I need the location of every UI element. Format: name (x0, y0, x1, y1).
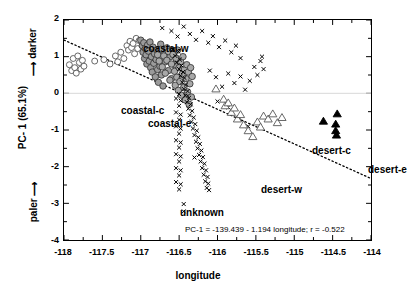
x-tick-label-6: -115 (275, 247, 315, 257)
data-point (239, 56, 243, 60)
data-point (176, 35, 180, 39)
data-point (174, 96, 178, 100)
data-point (202, 162, 206, 166)
data-point (204, 168, 208, 172)
data-point (160, 26, 164, 30)
data-point (211, 34, 215, 38)
y-axis-title-group: PC- 1 (65.1%) (17, 0, 28, 238)
data-point (179, 140, 183, 144)
group-label-coastal-e: coastal-e (148, 118, 191, 129)
y-axis-title: PC- 1 (65.1%) (17, 86, 28, 149)
data-point (195, 129, 199, 133)
data-point (208, 69, 212, 73)
data-point (174, 166, 178, 170)
data-point (159, 64, 165, 70)
data-point (179, 154, 183, 158)
group-label-desert-e: desert-e (368, 164, 407, 175)
data-point (199, 160, 203, 164)
data-point (168, 61, 174, 67)
data-point (202, 173, 206, 177)
data-point (200, 166, 204, 170)
group-label-coastal-c: coastal-c (121, 105, 164, 116)
x-tick-label-0: -118 (43, 247, 83, 257)
data-point (174, 110, 178, 114)
arrow-up-icon: ⟶ (28, 62, 39, 76)
data-point (92, 58, 98, 64)
data-point (174, 138, 178, 142)
data-point (118, 49, 124, 55)
data-point (192, 116, 196, 120)
data-point (194, 38, 198, 42)
data-point (252, 65, 256, 69)
data-point (319, 117, 327, 124)
data-point (121, 56, 127, 62)
data-point (169, 29, 173, 33)
data-point (190, 109, 194, 113)
data-point (201, 155, 205, 159)
x-tick-label-3: -116.5 (159, 247, 199, 257)
x-tick-label-5: -115.5 (236, 247, 276, 257)
data-point (162, 70, 168, 76)
data-point (179, 168, 183, 172)
series-desert-c (264, 110, 286, 126)
x-tick-label-7: -114.5 (313, 247, 353, 257)
data-point (239, 74, 243, 78)
data-point (214, 75, 218, 79)
data-point (160, 83, 166, 89)
data-point (81, 63, 87, 69)
data-point (101, 57, 107, 63)
data-point (333, 110, 341, 117)
x-tick-label-8: -114 (352, 247, 392, 257)
x-tick-label-1: -117.5 (82, 247, 122, 257)
data-point (192, 133, 196, 137)
data-point (194, 140, 198, 144)
data-point (107, 61, 113, 67)
data-point (179, 113, 183, 117)
y-axis-darker-group: ⟶ darker (27, 0, 39, 107)
group-label-unknown: unknown (180, 207, 224, 218)
series-desert-e (319, 110, 341, 138)
data-point (226, 72, 230, 76)
data-point (200, 29, 204, 33)
data-point (191, 127, 195, 131)
data-point (232, 81, 236, 85)
x-tick-label-2: -117 (120, 247, 160, 257)
y-axis-paler-label: paler (28, 198, 39, 222)
data-point (177, 104, 181, 108)
data-point (193, 122, 197, 126)
data-point (167, 77, 173, 83)
arrow-down-icon: ⟶ (29, 182, 40, 196)
data-point (243, 88, 247, 92)
data-point (234, 44, 238, 48)
data-point (182, 25, 186, 29)
data-point (260, 55, 264, 59)
data-point (189, 73, 195, 79)
group-label-desert-c: desert-c (312, 145, 351, 156)
data-point (187, 64, 193, 70)
data-point (223, 39, 227, 43)
data-point (212, 85, 220, 92)
data-point (262, 67, 266, 71)
data-point (72, 65, 78, 71)
data-point (188, 113, 192, 117)
data-point (188, 32, 192, 36)
group-label-coastal-w: coastal-w (143, 43, 189, 54)
x-axis-title: longitude (0, 270, 396, 281)
data-point (236, 111, 244, 118)
data-point (258, 59, 262, 63)
data-point (192, 156, 196, 160)
y-tick-label-3: -1 (35, 124, 59, 134)
x-tick-label-4: -116 (198, 247, 238, 257)
data-point (216, 99, 220, 103)
data-point (196, 146, 200, 150)
data-point (174, 180, 178, 184)
data-point (248, 79, 252, 83)
regression-equation: PC-1 = -139.439 - 1.194 longitude; r = -… (185, 225, 345, 234)
data-point (278, 114, 286, 121)
data-point (229, 50, 233, 54)
data-point (177, 146, 181, 150)
data-point (177, 187, 181, 191)
data-point (177, 132, 181, 136)
data-point (220, 85, 224, 89)
